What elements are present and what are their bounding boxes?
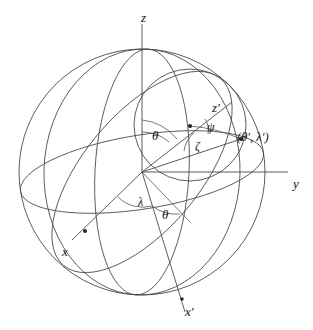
theta-lower-label: θ (162, 208, 168, 221)
x-prime-axis-point (180, 297, 183, 300)
arc-z-prime-to-target (190, 126, 241, 139)
x-axis-point (83, 229, 87, 233)
z-prime-axis-label: z′ (212, 101, 220, 114)
spherical-coordinates-figure: z y x x′ z′ θ θ λ ψ ζ (θ′, λ′) (0, 0, 313, 330)
figure-canvas (0, 0, 313, 330)
x-axis-label: x (62, 245, 68, 258)
lambda-arc (118, 197, 152, 207)
y-axis-label: y (293, 177, 299, 190)
x-axis-line (72, 172, 142, 240)
psi-label: ψ (207, 121, 214, 133)
radius-to-target-point (142, 139, 241, 172)
z-axis-label: z (141, 11, 146, 24)
theta-upper-arc-outer (142, 120, 177, 139)
theta-prime-lambda-prime-label: (θ′, λ′) (237, 131, 269, 144)
lambda-label: λ (138, 196, 143, 208)
zeta-label: ζ (195, 140, 200, 152)
x-prime-axis-label: x′ (185, 305, 194, 318)
theta-upper-label: θ (152, 129, 158, 142)
z-prime-pole-point (188, 124, 192, 128)
